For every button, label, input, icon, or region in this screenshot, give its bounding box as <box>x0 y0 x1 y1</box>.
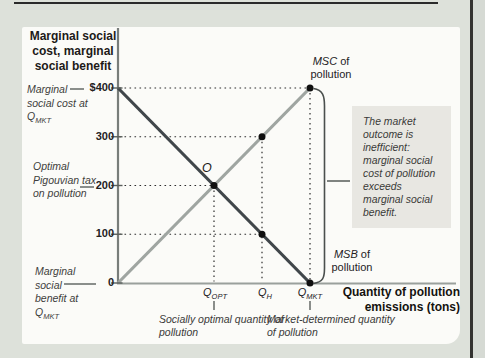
subscript-opt: OPT <box>212 292 227 301</box>
x-tick-qopt: QOPT <box>193 286 237 301</box>
msb-curve-label: MSB of pollution <box>321 248 383 274</box>
page-background: Marginal social cost, marginal social be… <box>0 0 485 358</box>
label-market-determined-quantity: Market-determined quantity of pollution <box>267 313 401 339</box>
x-tick-qh: QH <box>243 286 287 301</box>
page-edge-rule <box>470 0 473 358</box>
tick-base: Q <box>258 286 267 298</box>
subscript-mkt: MKT <box>43 312 59 321</box>
label-optimal-pigouvian-tax: Optimal Pigouvian tax on pollution <box>33 160 97 201</box>
subscript-h: H <box>267 292 272 301</box>
msb-abbr: MSB <box>334 248 358 260</box>
x-axis-title: Quantity of pollution emissions (tons) <box>323 285 460 314</box>
label-marginal-social-cost: Marginal social cost at QMKT <box>27 83 91 128</box>
label-marginal-social-benefit: Marginal social benefit at QMKT <box>35 265 93 323</box>
y-tick-300: 300 <box>62 130 114 142</box>
y-tick-100: 100 <box>62 227 114 239</box>
msc-abbr: MSC <box>313 55 337 67</box>
market-outcome-note: The market outcome is inefficient: margi… <box>352 106 451 228</box>
equilibrium-point-label: O <box>202 161 212 175</box>
y-axis-title: Marginal social cost, marginal social be… <box>27 29 119 74</box>
subscript-mkt: MKT <box>306 292 322 301</box>
top-rule-divider <box>14 2 438 4</box>
msc-curve-label: MSC of pollution <box>301 55 361 81</box>
tick-base: Q <box>203 286 212 298</box>
page-margin <box>473 0 485 358</box>
label-text: Marginal social benefit at Q <box>35 265 78 318</box>
subscript-mkt: MKT <box>35 116 51 125</box>
